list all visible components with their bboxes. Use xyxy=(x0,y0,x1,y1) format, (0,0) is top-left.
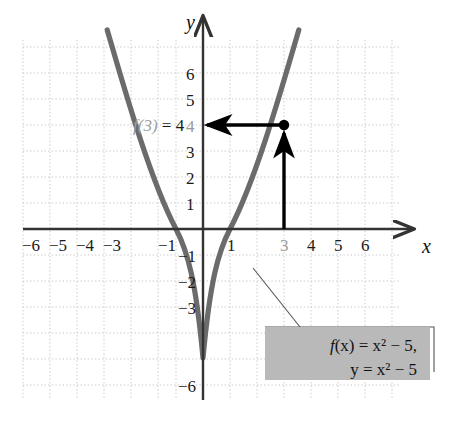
y-tick-label-2: 2 xyxy=(186,170,195,187)
equation-line-1-body: (x) = x² − 5, xyxy=(335,336,417,355)
function-value-result: = 4 xyxy=(158,116,185,135)
x-tick-label--3: −3 xyxy=(103,237,121,254)
x-tick-label--6: −6 xyxy=(22,237,40,254)
y-tick-label--2: −2 xyxy=(178,274,196,291)
equation-line-1: f(x) = x² − 5, xyxy=(271,334,417,358)
y-tick-label--1: −1 xyxy=(178,248,196,265)
x-tick-label--4: −4 xyxy=(76,237,94,254)
equation-callout-box: f(x) = x² − 5, y = x² − 5 xyxy=(265,327,430,380)
y-tick-label-5: 5 xyxy=(186,92,195,109)
y-tick-label--6: −6 xyxy=(178,378,196,395)
x-tick-label-5: 5 xyxy=(334,237,343,254)
equation-line-2: y = x² − 5 xyxy=(271,358,417,382)
y-axis-label: y xyxy=(186,12,195,32)
y-tick-label-4: 4 xyxy=(186,118,195,135)
x-tick-label-6: 6 xyxy=(361,237,370,254)
function-value-expression: f(3) xyxy=(133,116,158,135)
plotted-point-3-4 xyxy=(279,120,289,130)
y-tick-label-3: 3 xyxy=(186,144,195,161)
x-tick-label--1: −1 xyxy=(158,237,176,254)
y-tick-label-1: 1 xyxy=(186,196,195,213)
x-tick-label--5: −5 xyxy=(49,237,67,254)
function-value-annotation: f(3) = 4 xyxy=(133,117,184,134)
x-tick-label-1: 1 xyxy=(227,237,236,254)
y-tick-label--3: −3 xyxy=(178,300,196,317)
x-tick-label-3: 3 xyxy=(280,237,289,254)
y-tick-label-6: 6 xyxy=(186,66,195,83)
x-axis-label: x xyxy=(422,236,431,256)
figure-container: −6 −5 −4 −3 −1 1 3 4 5 6 6 5 4 3 2 1 −1 … xyxy=(0,0,457,422)
x-tick-label-4: 4 xyxy=(307,237,316,254)
